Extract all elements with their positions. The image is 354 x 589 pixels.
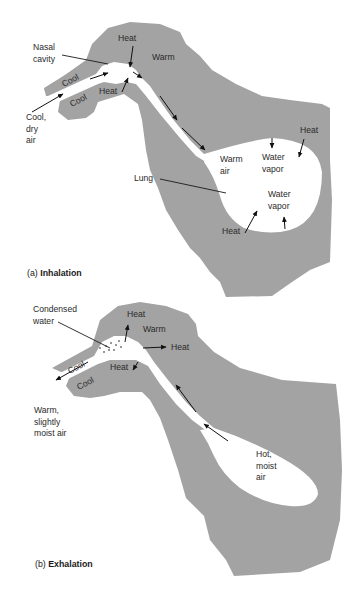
caption-a: (a) Inhalation — [27, 268, 82, 278]
label-heat-lung-bottom: Heat — [222, 226, 240, 238]
label-lung: Lung — [134, 173, 153, 185]
label-cool-dry-air: Cool, dry air — [26, 112, 46, 147]
label-water-vapor-lower: Water vapor — [268, 189, 291, 212]
diagram-canvas — [0, 0, 354, 589]
head-tissue-b — [52, 302, 342, 576]
label-warm: Warm — [152, 52, 175, 64]
caption-b-prefix: (b) — [35, 559, 48, 569]
label-condensed-water: Condensed water — [33, 304, 77, 327]
label-warm-air: Warm air — [220, 154, 243, 177]
label-heat-lung-right: Heat — [300, 125, 318, 137]
caption-b-title: Exhalation — [48, 559, 92, 569]
intake-arrow — [32, 94, 63, 112]
label-warm-b: Warm — [143, 324, 166, 336]
label-heat-bottom-b: Heat — [110, 362, 128, 374]
label-nasal-cavity: Nasal cavity — [33, 42, 55, 65]
label-heat-right-b: Heat — [171, 342, 189, 354]
label-heat-bottom: Heat — [99, 86, 117, 98]
panel-a-inhalation — [32, 22, 332, 297]
label-water-vapor-upper: Water vapor — [262, 152, 285, 175]
label-heat-top-b: Heat — [127, 309, 145, 321]
caption-a-prefix: (a) — [27, 268, 40, 278]
caption-b: (b) Exhalation — [35, 559, 93, 569]
label-heat-top: Heat — [118, 33, 136, 45]
label-warm-slightly-moist-air: Warm, slightly moist air — [34, 405, 66, 440]
panel-b-exhalation — [52, 302, 342, 576]
caption-a-title: Inhalation — [40, 268, 82, 278]
label-hot-moist-air: Hot, moist air — [256, 449, 277, 484]
